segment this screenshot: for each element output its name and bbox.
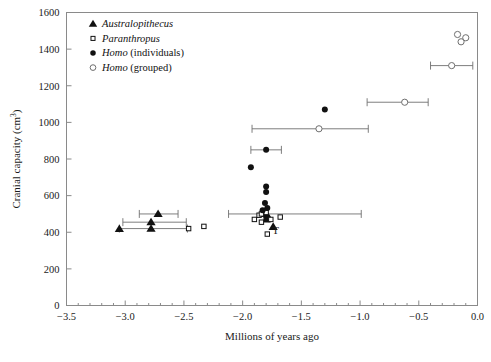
- point-paranthropus: [91, 36, 95, 40]
- point-homo-individual: [263, 183, 269, 189]
- x-axis-title: Millions of years ago: [225, 330, 319, 342]
- y-axis-ticks: [67, 13, 72, 306]
- y-tick-label: 400: [44, 227, 60, 238]
- point-homo-individual: [263, 147, 269, 153]
- x-tick-label: −0.5: [409, 311, 428, 322]
- point-homo-individual: [263, 189, 269, 195]
- point-homo-grouped: [90, 65, 96, 71]
- point-homo-grouped: [449, 63, 455, 69]
- point-homo-individual: [322, 107, 328, 113]
- legend-item-label: Homo (grouped): [101, 62, 172, 74]
- point-paranthropus: [269, 217, 273, 221]
- point-paranthropus: [252, 217, 256, 221]
- legend: AustralopithecusParanthropusHomo (indivi…: [89, 18, 185, 74]
- error-bars: [119, 62, 472, 233]
- y-tick-label: 1400: [39, 44, 60, 55]
- y-tick-label: 200: [44, 264, 60, 275]
- x-tick-label: −1.5: [292, 311, 311, 322]
- annotation-label: T: [272, 224, 279, 236]
- scatter-plot: −3.5−3.0−2.5−2.0−1.5−1.0−0.50.0 02004006…: [0, 0, 491, 362]
- x-tick-label: −2.0: [233, 311, 252, 322]
- legend-item-label: Paranthropus: [101, 33, 160, 44]
- x-tick-label: −1.0: [351, 311, 370, 322]
- point-paranthropus: [186, 226, 190, 230]
- point-homo-grouped: [316, 126, 322, 132]
- y-tick-label: 1600: [39, 7, 60, 18]
- point-homo-individual: [248, 164, 254, 170]
- point-australopithecus: [89, 20, 97, 27]
- y-tick-label: 600: [44, 190, 60, 201]
- y-tick-label: 1200: [39, 81, 60, 92]
- point-paranthropus: [265, 232, 269, 236]
- y-tick-label: 800: [44, 154, 60, 165]
- x-tick-label: −3.5: [57, 311, 76, 322]
- x-tick-label: −2.5: [174, 311, 193, 322]
- point-australopithecus: [153, 210, 162, 218]
- figure-container: −3.5−3.0−2.5−2.0−1.5−1.0−0.50.0 02004006…: [0, 0, 491, 362]
- point-homo-grouped: [454, 31, 460, 37]
- y-axis-title: Cranial capacity (cm3): [9, 109, 24, 208]
- x-tick-label: −3.0: [116, 311, 135, 322]
- x-axis-tick-labels: −3.5−3.0−2.5−2.0−1.5−1.0−0.50.0: [57, 311, 484, 322]
- point-paranthropus: [259, 220, 263, 224]
- point-paranthropus: [278, 215, 282, 219]
- point-homo-individual: [90, 50, 96, 56]
- legend-item-label: Homo (individuals): [101, 47, 184, 59]
- point-paranthropus: [202, 224, 206, 228]
- x-axis-ticks: [67, 301, 478, 306]
- point-homo-grouped: [402, 99, 408, 105]
- y-tick-label: 0: [54, 300, 59, 311]
- plot-annotations: T: [272, 224, 279, 236]
- y-tick-label: 1000: [39, 117, 60, 128]
- x-tick-label: 0.0: [471, 311, 484, 322]
- point-homo-individual: [260, 207, 266, 213]
- legend-item-label: Australopithecus: [101, 18, 173, 29]
- y-axis-tick-labels: 02004006008001000120014001600: [39, 7, 60, 311]
- point-homo-grouped: [458, 39, 464, 45]
